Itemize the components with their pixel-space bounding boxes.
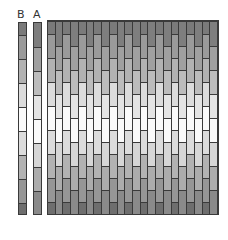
- grid-a-segment: [133, 94, 140, 118]
- grid-b-segment: [48, 22, 55, 34]
- grid-b-segment: [94, 106, 101, 130]
- strip-a-segment: [34, 191, 41, 215]
- grid-a-segment: [87, 166, 94, 190]
- grid-b-segment: [156, 22, 163, 34]
- grid-b-segment: [94, 82, 101, 106]
- grid-b-segment: [203, 130, 210, 154]
- grid-b-segment: [187, 178, 194, 202]
- grid-column-a: [164, 21, 172, 214]
- grid-a-segment: [210, 142, 217, 166]
- grid-b-segment: [187, 106, 194, 130]
- grid-a-segment: [179, 190, 186, 214]
- grid-b-segment: [187, 202, 194, 214]
- grid-b-segment: [63, 130, 70, 154]
- grid-a-segment: [210, 118, 217, 142]
- strip-b-segment: [19, 23, 26, 35]
- grid-a-segment: [102, 70, 109, 94]
- grid-a-segment: [102, 46, 109, 70]
- grid-a-segment: [148, 22, 155, 46]
- grid-b-segment: [94, 202, 101, 214]
- grid-b-segment: [110, 202, 117, 214]
- grid-b-segment: [48, 34, 55, 58]
- strip-b-segment: [19, 107, 26, 131]
- grid-b-segment: [172, 34, 179, 58]
- grid-b-segment: [48, 106, 55, 130]
- strip-a-segment: [34, 47, 41, 71]
- grid-column-a: [148, 21, 156, 214]
- grid-b-segment: [63, 82, 70, 106]
- grid-b-segment: [48, 82, 55, 106]
- grid-b-segment: [63, 34, 70, 58]
- grid-a-segment: [179, 166, 186, 190]
- grid-a-segment: [102, 94, 109, 118]
- grid-b-segment: [203, 58, 210, 82]
- grid-a-segment: [118, 46, 125, 70]
- grid-a-segment: [148, 94, 155, 118]
- grid-b-segment: [94, 130, 101, 154]
- grid-b-segment: [203, 34, 210, 58]
- grid-b-segment: [141, 34, 148, 58]
- grid-b-segment: [156, 58, 163, 82]
- grid-a-segment: [164, 94, 171, 118]
- grid-a-segment: [56, 70, 63, 94]
- grid-b-segment: [63, 106, 70, 130]
- grid-a-segment: [133, 142, 140, 166]
- grid-b-segment: [141, 202, 148, 214]
- grid-b-segment: [79, 82, 86, 106]
- grid-b-segment: [63, 22, 70, 34]
- grid-a-segment: [87, 70, 94, 94]
- strip-b: [18, 22, 27, 215]
- grid-a-segment: [164, 142, 171, 166]
- grid-a-segment: [133, 70, 140, 94]
- grid-a-segment: [195, 70, 202, 94]
- grid-a-segment: [118, 22, 125, 46]
- grid-column-b: [125, 21, 133, 214]
- grid-a-segment: [210, 166, 217, 190]
- grid-a-segment: [56, 190, 63, 214]
- grid-a-segment: [71, 70, 78, 94]
- grid-a-segment: [195, 22, 202, 46]
- grid-a-segment: [179, 118, 186, 142]
- grid-a-segment: [148, 190, 155, 214]
- grid-a-segment: [87, 22, 94, 46]
- grid-a-segment: [195, 94, 202, 118]
- grid-column-a: [87, 21, 95, 214]
- grid-a-segment: [71, 46, 78, 70]
- grid-b-segment: [203, 106, 210, 130]
- grid-b-segment: [172, 106, 179, 130]
- grid-b-segment: [141, 154, 148, 178]
- grid-b-segment: [79, 202, 86, 214]
- strip-b-segment: [19, 155, 26, 179]
- grid-a-segment: [71, 22, 78, 46]
- grid-b-segment: [187, 22, 194, 34]
- grid-b-segment: [172, 178, 179, 202]
- grid-a-segment: [71, 118, 78, 142]
- strip-a-segment: [34, 143, 41, 167]
- grid-a-segment: [195, 190, 202, 214]
- grid-b-segment: [172, 22, 179, 34]
- grid-a-segment: [56, 142, 63, 166]
- striped-grid: [47, 20, 219, 215]
- grid-a-segment: [56, 166, 63, 190]
- grid-a-segment: [133, 46, 140, 70]
- grid-column-b: [156, 21, 164, 214]
- grid-a-segment: [118, 190, 125, 214]
- grid-column-b: [187, 21, 195, 214]
- grid-a-segment: [56, 22, 63, 46]
- grid-column-a: [133, 21, 141, 214]
- grid-a-segment: [133, 190, 140, 214]
- grid-column-a: [56, 21, 64, 214]
- grid-b-segment: [48, 202, 55, 214]
- grid-b-segment: [156, 178, 163, 202]
- grid-a-segment: [210, 70, 217, 94]
- grid-column-b: [110, 21, 118, 214]
- grid-a-segment: [56, 46, 63, 70]
- strip-b-segment: [19, 203, 26, 215]
- grid-b-segment: [141, 82, 148, 106]
- grid-a-segment: [164, 166, 171, 190]
- strip-b-segment: [19, 59, 26, 83]
- grid-a-segment: [102, 22, 109, 46]
- grid-b-segment: [187, 34, 194, 58]
- grid-b-segment: [156, 130, 163, 154]
- grid-a-segment: [56, 94, 63, 118]
